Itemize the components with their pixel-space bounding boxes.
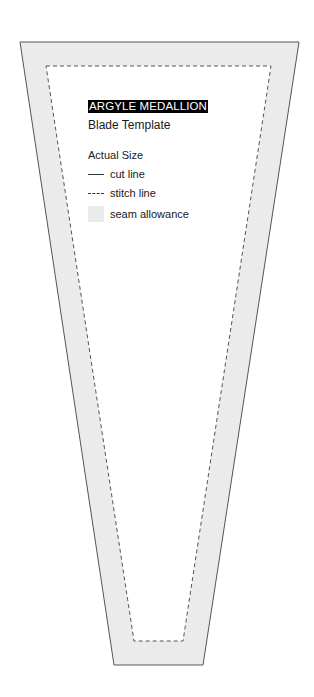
legend-item-seam-allowance: seam allowance	[88, 206, 208, 222]
legend-label: seam allowance	[110, 208, 189, 221]
template-subtitle: Blade Template	[88, 118, 208, 132]
gray-swatch-icon	[88, 206, 104, 222]
legend-label: stitch line	[110, 187, 156, 200]
legend-label: cut line	[110, 168, 145, 181]
template-title: ARGYLE MEDALLION	[88, 100, 208, 113]
solid-line-icon	[88, 174, 104, 175]
dashed-line-icon	[88, 193, 104, 194]
legend-item-cut-line: cut line	[88, 168, 208, 181]
scale-note: Actual Size	[88, 149, 208, 162]
template-legend: ARGYLE MEDALLION Blade Template Actual S…	[88, 96, 208, 222]
legend-item-stitch-line: stitch line	[88, 187, 208, 200]
